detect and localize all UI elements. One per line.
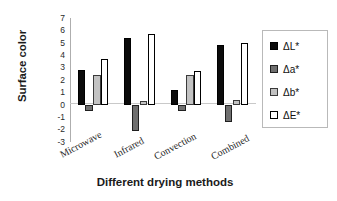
legend-item-db[interactable]: Δb*: [270, 86, 299, 98]
bar-infrared-dL: [124, 38, 131, 104]
legend-label: ΔE*: [283, 110, 300, 121]
chart-figure: Surface color 76543210-1-2-3 MicrowaveIn…: [0, 0, 337, 201]
legend-item-da[interactable]: Δa*: [270, 63, 299, 75]
legend-swatch-icon: [270, 111, 278, 119]
bar-combined-db: [233, 100, 240, 105]
legend-item-dE[interactable]: ΔE*: [270, 109, 300, 121]
bar-infrared-db: [140, 101, 147, 105]
bar-infrared-dE: [148, 34, 155, 105]
bar-convection-da: [178, 105, 185, 111]
bar-convection-dL: [171, 90, 178, 105]
y-tick-label: 4: [49, 51, 65, 60]
chart-legend: ΔL*Δa*Δb*ΔE*: [262, 30, 328, 128]
legend-swatch-icon: [270, 65, 278, 73]
y-tick-label: 1: [49, 88, 65, 97]
y-axis-title: Surface color: [16, 11, 28, 121]
legend-swatch-icon: [270, 42, 278, 50]
legend-item-dL[interactable]: ΔL*: [270, 40, 299, 52]
legend-swatch-icon: [270, 88, 278, 96]
bar-microwave-dL: [78, 70, 85, 105]
bar-combined-dE: [241, 43, 248, 105]
y-tick-label: 6: [49, 26, 65, 35]
y-tick-label: -1: [49, 113, 65, 122]
bar-convection-dE: [194, 71, 201, 105]
y-tick-label: 5: [49, 39, 65, 48]
bar-combined-dL: [217, 45, 224, 105]
legend-label: ΔL*: [283, 41, 299, 52]
legend-label: Δa*: [283, 64, 299, 75]
x-axis-title: Different drying methods: [60, 176, 270, 188]
bar-convection-db: [186, 75, 193, 105]
y-tick-label: 0: [49, 101, 65, 110]
bar-infrared-da: [132, 105, 139, 132]
bar-microwave-dE: [101, 59, 108, 105]
bar-microwave-db: [93, 75, 100, 105]
y-tick-label: 3: [49, 63, 65, 72]
y-tick-label: -3: [49, 138, 65, 147]
bar-microwave-da: [85, 105, 92, 111]
legend-label: Δb*: [283, 87, 299, 98]
bar-combined-da: [225, 105, 232, 122]
y-axis-line: [70, 18, 71, 142]
y-tick-label: -2: [49, 125, 65, 134]
y-tick-label: 2: [49, 76, 65, 85]
y-tick-label: 7: [49, 14, 65, 23]
